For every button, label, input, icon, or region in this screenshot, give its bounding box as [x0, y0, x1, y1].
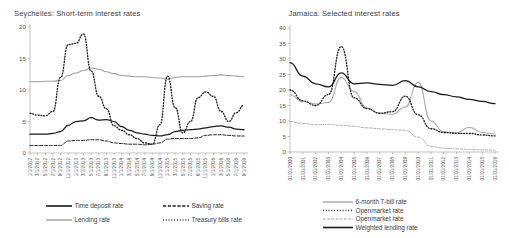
x-axis-tick-label: 01/01/2016	[492, 157, 497, 181]
legend-label: Openmarket rate	[355, 207, 403, 215]
x-axis-tick-label: 3/1/2014	[127, 158, 132, 177]
x-axis-tick-label: 7/1/2013	[96, 158, 101, 177]
x-axis-tick-label: 3/1/2013	[81, 158, 86, 177]
y-axis-tick-label: 35	[279, 40, 286, 47]
x-axis-tick-label: 1/1/2012	[28, 158, 33, 177]
series-line	[30, 135, 244, 146]
series-line	[290, 78, 495, 134]
y-axis-tick-label: 25	[279, 71, 286, 78]
series-line	[290, 122, 495, 151]
x-axis-tick-label: 5/1/2012	[43, 158, 48, 177]
x-axis-tick-label: 01/01/2015	[479, 157, 484, 181]
x-axis-tick-label: 01/01/2006	[364, 157, 369, 181]
x-axis-tick-label: 9/1/2012	[58, 158, 63, 177]
x-axis-tick-label: 7/1/2012	[51, 158, 56, 177]
x-axis-tick-label: 5/1/2016	[226, 158, 231, 177]
x-axis-tick-label: 01/01/2012	[441, 157, 446, 181]
series-line	[290, 47, 495, 136]
x-axis-tick-label: 3/1/2012	[35, 158, 40, 177]
x-axis-tick-label: 01/01/2001	[300, 157, 305, 181]
x-axis-tick-label: 11/1/2013	[112, 158, 117, 179]
y-axis-tick-label: 20	[19, 23, 26, 30]
x-axis-tick-label: 7/1/2015	[188, 158, 193, 177]
legend-label: Saving rate	[192, 202, 225, 210]
legend-label: Time deposit rate	[75, 202, 125, 210]
x-axis-tick-label: 01/01/2002	[313, 157, 318, 181]
chart-panel-jamaica: Jamaica: Selected interest rates 0510152…	[255, 0, 509, 238]
series-line	[30, 118, 244, 136]
x-axis-tick-label: 01/01/2009	[403, 157, 408, 181]
x-axis-tick-label: 01/01/2014	[467, 157, 472, 181]
legend-label: Openmarket rate	[355, 215, 403, 223]
series-line	[30, 34, 244, 144]
y-axis-tick-label: 20	[279, 86, 286, 93]
y-axis-tick-label: 10	[19, 86, 26, 93]
x-axis-tick-label: 5/1/2013	[89, 158, 94, 177]
x-axis-tick-label: 1/1/2016	[211, 158, 216, 177]
chart-svg-seychelles: 051015201/1/20123/1/20125/1/20127/1/2012…	[0, 0, 254, 238]
chart-svg-jamaica: 051015202530354001/01/200001/01/200101/0…	[255, 0, 509, 238]
x-axis-tick-label: 9/1/2013	[104, 158, 109, 177]
x-axis-tick-label: 01/01/2010	[415, 157, 420, 181]
chart-panel-seychelles: Seychelles: Short-term interest rates 05…	[0, 0, 255, 238]
legend-label: Treasury bills rate	[192, 216, 243, 224]
dual-chart-figure: Seychelles: Short-term interest rates 05…	[0, 0, 509, 238]
y-axis-tick-label: 10	[279, 117, 286, 124]
x-axis-tick-label: 5/1/2015	[181, 158, 186, 177]
series-line	[30, 68, 244, 82]
x-axis-tick-label: 9/1/2015	[196, 158, 201, 177]
x-axis-tick-label: 7/1/2016	[234, 158, 239, 177]
x-axis-tick-label: 5/1/2014	[135, 158, 140, 177]
x-axis-tick-label: 3/1/2015	[173, 158, 178, 177]
x-axis-tick-label: 11/1/2015	[203, 158, 208, 179]
x-axis-tick-label: 01/01/2000	[287, 157, 292, 181]
legend-label: Weighted lending rate	[355, 224, 418, 232]
x-axis-tick-label: 9/1/2016	[242, 158, 247, 177]
x-axis-tick-label: 7/1/2014	[142, 158, 147, 177]
y-axis-tick-label: 5	[23, 118, 27, 125]
x-axis-tick-label: 01/01/2005	[351, 157, 356, 181]
y-axis-tick-label: 40	[279, 24, 286, 31]
y-axis-tick-label: 0	[23, 149, 27, 156]
x-axis-tick-label: 11/1/2014	[158, 158, 163, 179]
x-axis-tick-label: 1/1/2013	[74, 158, 79, 177]
y-axis-tick-label: 0	[282, 148, 286, 155]
x-axis-tick-label: 01/01/2007	[377, 157, 382, 181]
y-axis-tick-label: 5	[282, 133, 286, 140]
legend-label: Lending rate	[75, 216, 111, 224]
x-axis-tick-label: 01/01/2003	[326, 157, 331, 181]
series-line	[290, 63, 495, 104]
x-axis-tick-label: 01/01/2013	[454, 157, 459, 181]
y-axis-tick-label: 15	[279, 102, 286, 109]
legend-label: 6-month T-bill rate	[355, 198, 407, 205]
x-axis-tick-label: 1/1/2015	[165, 158, 170, 177]
x-axis-tick-label: 01/01/2011	[428, 157, 433, 181]
x-axis-tick-label: 9/1/2014	[150, 158, 155, 177]
y-axis-tick-label: 15	[19, 55, 26, 62]
x-axis-tick-label: 01/01/2004	[338, 157, 343, 181]
x-axis-tick-label: 01/01/2008	[390, 157, 395, 181]
x-axis-tick-label: 1/1/2014	[119, 158, 124, 177]
x-axis-tick-label: 3/1/2016	[219, 158, 224, 177]
y-axis-tick-label: 30	[279, 55, 286, 62]
x-axis-tick-label: 11/1/2012	[66, 158, 71, 179]
